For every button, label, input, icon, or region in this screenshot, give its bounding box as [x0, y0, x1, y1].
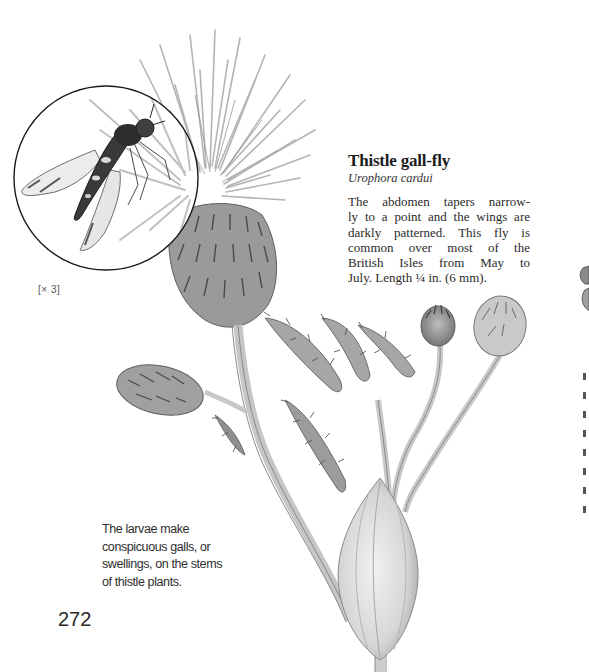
species-common-name: Thistle gall-fly — [348, 151, 530, 171]
magnification-label: [× 3] — [38, 284, 60, 295]
page-number: 272 — [58, 608, 91, 631]
caption-line: The larvae make — [102, 521, 272, 539]
illustration-caption: The larvae make conspicuous galls, or sw… — [102, 521, 272, 591]
description-line: ly to a point and the wings are — [348, 209, 530, 224]
description-line: common over most of the — [348, 240, 530, 255]
adjacent-page-illustration-fragment — [580, 266, 589, 310]
adjacent-page-text-fragment — [583, 373, 589, 525]
description-line: darkly patterned. This fly is — [348, 225, 530, 240]
magnified-inset — [14, 86, 198, 270]
description-line: July. Length ¼ in. (6 mm). — [348, 270, 530, 285]
description-line: British Isles from May to — [348, 255, 530, 270]
species-latin-name: Urophora cardui — [348, 171, 530, 186]
description-line: The abdomen tapers narrow- — [348, 194, 530, 209]
caption-line: of thistle plants. — [102, 574, 272, 592]
caption-line: swellings, on the stems — [102, 556, 272, 574]
book-page: [× 3] Thistle gall-fly Urophora cardui T… — [0, 0, 589, 672]
species-description: The abdomen tapers narrow- ly to a point… — [348, 194, 530, 286]
thistle-illustration — [0, 0, 589, 672]
caption-line: conspicuous galls, or — [102, 539, 272, 557]
species-entry: Thistle gall-fly Urophora cardui The abd… — [348, 151, 530, 286]
